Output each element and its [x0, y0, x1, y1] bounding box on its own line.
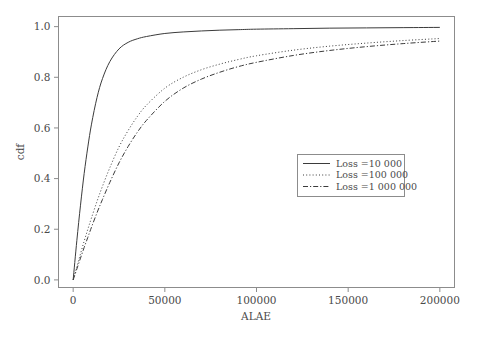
x-tick-label: 0 [70, 294, 77, 306]
legend-label-1: Loss =10 000 [336, 158, 402, 169]
chart-figure: 050000100000150000200000 0.00.20.40.60.8… [0, 0, 478, 337]
y-tick-label: 0.4 [34, 172, 51, 184]
y-tick-label: 0.0 [34, 274, 51, 286]
x-tick-label: 150000 [328, 294, 368, 306]
y-tick-label: 0.6 [34, 122, 51, 134]
x-axis-title: ALAE [240, 310, 271, 322]
x-tick-label: 50000 [148, 294, 181, 306]
y-tick-label: 1.0 [34, 20, 51, 32]
x-tick-label: 200000 [420, 294, 460, 306]
chart-svg: 050000100000150000200000 0.00.20.40.60.8… [0, 0, 478, 337]
y-tick-label: 0.8 [34, 71, 51, 83]
y-axis-title: cdf [14, 143, 26, 161]
chart-legend: Loss =10 000Loss =100 000Loss =1 000 000 [298, 155, 418, 197]
x-tick-label: 100000 [236, 294, 276, 306]
legend-label-2: Loss =100 000 [336, 169, 408, 180]
y-tick-label: 0.2 [34, 223, 51, 235]
legend-label-3: Loss =1 000 000 [336, 181, 417, 192]
